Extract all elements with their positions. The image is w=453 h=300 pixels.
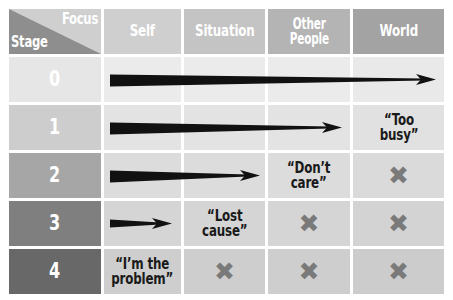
matrix-cell-r1-self	[104, 105, 181, 150]
stage-axis-label: Stage	[11, 35, 48, 50]
matrix-cell-r3-other-people: ✖	[268, 201, 350, 246]
x-mark-icon: ✖	[388, 163, 409, 188]
matrix-cell-r3-situation: “Lost cause”	[184, 201, 265, 246]
stage-cell-1: 1	[9, 105, 101, 150]
stage-cell-0: 0	[9, 57, 101, 102]
matrix-cell-r3-world: ✖	[353, 201, 444, 246]
x-mark-icon: ✖	[214, 259, 235, 284]
stage-cell-4-label: 4	[49, 261, 60, 282]
corner-header-cell: Focus Stage	[9, 9, 101, 54]
column-header-situation: Situation	[184, 9, 265, 54]
column-header-situation-label: Situation	[195, 24, 255, 39]
matrix-cell-r0-self	[104, 57, 181, 102]
matrix-cell-r4-world: ✖	[353, 249, 444, 294]
stage-cell-3-label: 3	[49, 213, 60, 234]
stage-cell-3: 3	[9, 201, 101, 246]
focus-stage-matrix: Focus Stage Self Situation Other People …	[0, 0, 453, 300]
matrix-cell-r0-situation	[184, 57, 265, 102]
x-mark-icon: ✖	[299, 259, 320, 284]
matrix-cell-r2-other-people: “Don’t care”	[268, 153, 350, 198]
matrix-cell-r2-other-people-quote: “Don’t care”	[284, 161, 333, 191]
matrix-cell-r3-self	[104, 201, 181, 246]
focus-axis-label: Focus	[62, 12, 98, 27]
matrix-cell-r4-other-people: ✖	[268, 249, 350, 294]
stage-cell-1-label: 1	[49, 117, 60, 138]
quote-line2: busy”	[379, 128, 418, 143]
stage-cell-2-label: 2	[49, 165, 60, 186]
matrix-cell-r4-self: “I’m the problem”	[104, 249, 181, 294]
matrix-cell-r2-world: ✖	[353, 153, 444, 198]
x-mark-icon: ✖	[388, 211, 409, 236]
stage-cell-4: 4	[9, 249, 101, 294]
column-header-other-people-line2: People	[289, 32, 328, 47]
matrix-cell-r2-self	[104, 153, 181, 198]
column-header-other-people: Other People	[268, 9, 350, 54]
stage-cell-2: 2	[9, 153, 101, 198]
quote-line2: cause”	[202, 224, 247, 239]
matrix-cell-r1-world-quote: “Too busy”	[377, 113, 421, 143]
quote-line2: care”	[287, 176, 330, 191]
matrix-cell-r4-self-quote: “I’m the problem”	[107, 257, 177, 287]
matrix-cell-r4-situation: ✖	[184, 249, 265, 294]
quote-line2: problem”	[112, 272, 174, 287]
x-mark-icon: ✖	[388, 259, 409, 284]
x-mark-icon: ✖	[299, 211, 320, 236]
column-header-world: World	[353, 9, 444, 54]
column-header-self-label: Self	[130, 24, 155, 39]
matrix-cell-r2-situation	[184, 153, 265, 198]
stage-cell-0-label: 0	[49, 69, 60, 90]
matrix-cell-r3-situation-quote: “Lost cause”	[199, 209, 251, 239]
matrix-cell-r0-other-people	[268, 57, 350, 102]
column-header-world-label: World	[379, 24, 417, 39]
matrix-cell-r0-world	[353, 57, 444, 102]
column-header-self: Self	[104, 9, 181, 54]
matrix-cell-r1-other-people	[268, 105, 350, 150]
matrix-cell-r1-situation	[184, 105, 265, 150]
matrix-cell-r1-world: “Too busy”	[353, 105, 444, 150]
